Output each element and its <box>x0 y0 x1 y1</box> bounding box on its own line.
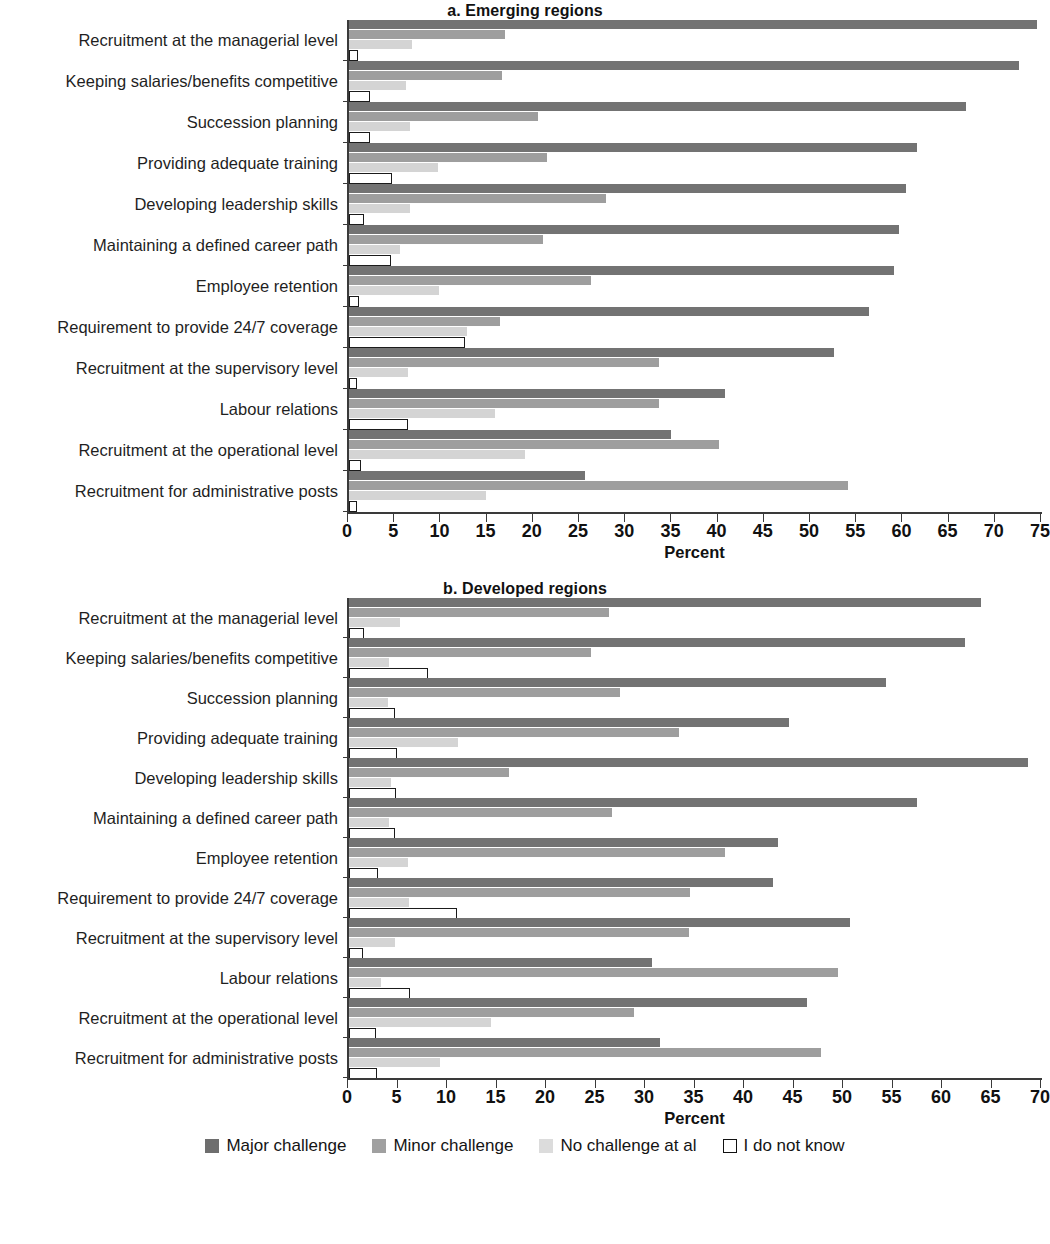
bar-group <box>347 678 1050 718</box>
category-label: Succession planning <box>0 102 347 143</box>
bar-nochal <box>349 938 395 947</box>
bar-nochal <box>349 778 391 787</box>
bar-major <box>349 878 773 887</box>
bar-group <box>347 430 1050 471</box>
bar-group <box>347 798 1050 838</box>
bar-nochal <box>349 738 458 747</box>
chart-row: Employee retention <box>0 838 1050 878</box>
x-axis-tick-label: 75 <box>1030 521 1050 542</box>
chart-row: Recruitment for administrative posts <box>0 1038 1050 1078</box>
bar-group <box>347 958 1050 998</box>
bar-nochal <box>349 40 412 49</box>
x-axis-tick-label: 60 <box>931 1087 951 1108</box>
bar-nochal <box>349 204 410 213</box>
bar-minor <box>349 194 606 203</box>
bar-group <box>347 758 1050 798</box>
chart-row: Recruitment at the supervisory level <box>0 918 1050 958</box>
bar-group <box>347 389 1050 430</box>
bar-nochal <box>349 245 400 254</box>
legend-item-major: Major challenge <box>205 1136 346 1156</box>
bar-major <box>349 348 834 357</box>
bar-group <box>347 266 1050 307</box>
bar-minor <box>349 153 547 162</box>
bar-dunno <box>349 460 361 471</box>
chart-row: Maintaining a defined career path <box>0 225 1050 266</box>
bar-nochal <box>349 122 410 131</box>
bar-nochal <box>349 898 409 907</box>
bar-group <box>347 598 1050 638</box>
bar-group <box>347 718 1050 758</box>
bar-nochal <box>349 1018 491 1027</box>
bar-minor <box>349 30 505 39</box>
bar-dunno <box>349 173 392 184</box>
bar-group <box>347 918 1050 958</box>
chart-b-axis-ticklabels: 0510152025303540455055606570 <box>347 1081 1042 1107</box>
bar-group <box>347 348 1050 389</box>
bar-group <box>347 838 1050 878</box>
chart-b-axis-title: Percent <box>347 1109 1042 1128</box>
bar-major <box>349 638 965 647</box>
bar-major <box>349 61 1019 70</box>
category-label: Recruitment at the supervisory level <box>0 348 347 389</box>
chart-row: Developing leadership skills <box>0 758 1050 798</box>
chart-row: Employee retention <box>0 266 1050 307</box>
x-axis-tick-label: 5 <box>388 521 398 542</box>
chart-legend: Major challengeMinor challengeNo challen… <box>0 1136 1050 1156</box>
bar-minor <box>349 608 609 617</box>
bar-minor <box>349 71 502 80</box>
bar-dunno <box>349 337 465 348</box>
bar-major <box>349 1038 660 1047</box>
chart-title-a: a. Emerging regions <box>0 0 1050 20</box>
bar-group <box>347 307 1050 348</box>
bar-nochal <box>349 409 495 418</box>
x-axis-tick-label: 35 <box>660 521 680 542</box>
bar-group <box>347 1038 1050 1078</box>
x-axis-tick-label: 20 <box>535 1087 555 1108</box>
category-label: Employee retention <box>0 838 347 878</box>
bar-major <box>349 307 869 316</box>
chart-row: Labour relations <box>0 389 1050 430</box>
legend-swatch-minor-icon <box>372 1139 386 1153</box>
bar-minor <box>349 848 725 857</box>
bar-minor <box>349 648 591 657</box>
x-axis-tick-label: 45 <box>753 521 773 542</box>
bar-minor <box>349 317 500 326</box>
chart-row: Labour relations <box>0 958 1050 998</box>
x-axis-tick-label: 5 <box>391 1087 401 1108</box>
x-axis-tick-label: 40 <box>707 521 727 542</box>
bar-major <box>349 143 917 152</box>
chart-row: Recruitment at the operational level <box>0 430 1050 471</box>
bar-group <box>347 20 1050 61</box>
legend-item-nochal: No challenge at al <box>539 1136 696 1156</box>
category-label: Recruitment for administrative posts <box>0 1038 347 1078</box>
x-axis-tick-label: 30 <box>614 521 634 542</box>
category-label: Providing adequate training <box>0 718 347 758</box>
bar-major <box>349 184 906 193</box>
bar-minor <box>349 276 591 285</box>
chart-panel-emerging: a. Emerging regions Recruitment at the m… <box>0 0 1050 562</box>
bar-minor <box>349 768 509 777</box>
bar-major <box>349 958 652 967</box>
bar-major <box>349 598 981 607</box>
x-axis-tick-label: 15 <box>485 1087 505 1108</box>
bar-nochal <box>349 1058 440 1067</box>
x-axis-tick-label: 70 <box>1030 1087 1050 1108</box>
x-axis-tick-label: 10 <box>436 1087 456 1108</box>
bar-minor <box>349 235 543 244</box>
category-label: Developing leadership skills <box>0 758 347 798</box>
chart-row: Requirement to provide 24/7 coverage <box>0 307 1050 348</box>
chart-row: Recruitment at the supervisory level <box>0 348 1050 389</box>
bar-dunno <box>349 419 408 430</box>
bar-nochal <box>349 368 408 377</box>
chart-row: Succession planning <box>0 678 1050 718</box>
x-axis-tick-label: 65 <box>980 1087 1000 1108</box>
legend-swatch-major-icon <box>205 1139 219 1153</box>
bar-group <box>347 225 1050 266</box>
bar-minor <box>349 1048 821 1057</box>
x-axis-tick-label: 55 <box>845 521 865 542</box>
x-axis-tick-label: 35 <box>683 1087 703 1108</box>
category-label: Developing leadership skills <box>0 184 347 225</box>
chart-a-axis-ticklabels: 051015202530354045505560657075 <box>347 515 1042 541</box>
category-label: Recruitment at the managerial level <box>0 20 347 61</box>
bar-major <box>349 998 807 1007</box>
